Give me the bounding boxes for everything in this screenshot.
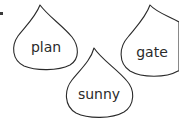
raindrop-gate: gate (121, 5, 179, 76)
drop-word: sunny (78, 86, 120, 102)
drop-word: gate (136, 44, 168, 60)
raindrop-outline-icon (14, 5, 78, 70)
drop-word: plan (31, 39, 61, 55)
raindrop-plan: plan (14, 5, 78, 70)
raindrop-word-sheet: plan gate sunny (0, 0, 179, 118)
raindrop-outline-icon (121, 5, 179, 76)
